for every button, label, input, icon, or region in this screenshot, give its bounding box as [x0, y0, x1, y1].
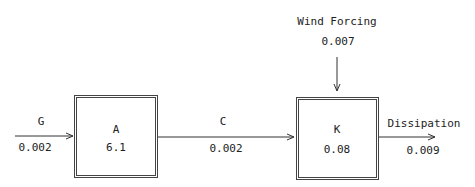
flow-c-label: C	[220, 116, 227, 128]
node-k-label: K	[334, 124, 341, 136]
node-k-box	[296, 97, 379, 180]
node-a-label: A	[113, 124, 120, 136]
flow-wind-label: Wind Forcing	[297, 16, 376, 28]
flow-dissipation-value: 0.009	[406, 145, 439, 157]
flow-dissipation-label: Dissipation	[388, 118, 461, 130]
flow-arrows	[0, 0, 475, 187]
node-k-value: 0.08	[324, 144, 351, 156]
node-a-value: 6.1	[106, 142, 126, 154]
flow-g-label: G	[38, 116, 45, 128]
flow-c-value: 0.002	[209, 143, 242, 155]
node-a-box	[74, 95, 158, 178]
flow-wind-value: 0.007	[321, 36, 354, 48]
flow-g-value: 0.002	[18, 142, 51, 154]
